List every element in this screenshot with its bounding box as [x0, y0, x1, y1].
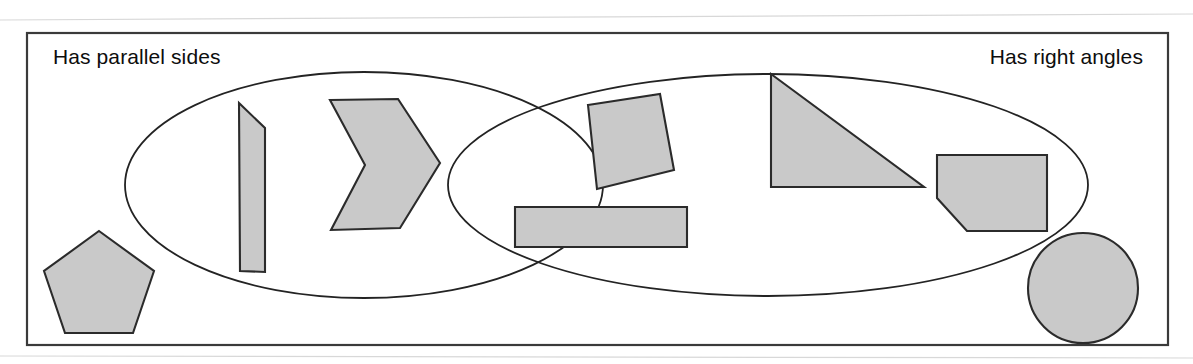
- shape-trapezoid[interactable]: [239, 103, 265, 272]
- scan-edge-bottom: [0, 356, 1193, 358]
- shape-circle[interactable]: [1028, 233, 1138, 343]
- venn-diagram-svg: Has parallel sides Has right angles: [0, 0, 1193, 364]
- venn-diagram-canvas: Has parallel sides Has right angles: [0, 0, 1193, 364]
- shape-horizontal-rectangle[interactable]: [515, 207, 687, 247]
- scan-edge-top: [0, 14, 1193, 20]
- set-label-left: Has parallel sides: [53, 45, 221, 68]
- set-label-right: Has right angles: [990, 45, 1143, 68]
